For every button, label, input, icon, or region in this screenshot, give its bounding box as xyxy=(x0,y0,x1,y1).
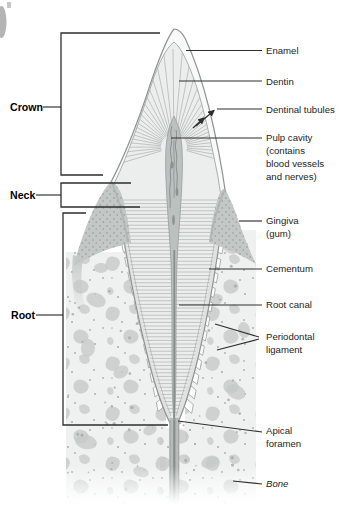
bottom-margin xyxy=(0,508,354,516)
bone-speckle xyxy=(114,387,116,389)
label-enamel: Enamel xyxy=(266,45,299,56)
bone-speckle xyxy=(234,284,237,287)
svg-text:foramen: foramen xyxy=(266,438,301,449)
bone-speckle xyxy=(120,330,122,332)
label-crown: Crown xyxy=(10,101,43,113)
svg-text:Gingiva: Gingiva xyxy=(266,215,299,226)
bone-speckle xyxy=(182,424,184,426)
label-neck: Neck xyxy=(10,189,35,201)
label-dentin: Dentin xyxy=(266,76,294,87)
label-root: Root xyxy=(11,309,36,321)
svg-text:blood vessels: blood vessels xyxy=(266,158,324,169)
bone-fade xyxy=(58,466,260,510)
bone-speckle xyxy=(219,299,221,301)
svg-text:Periodontal: Periodontal xyxy=(266,331,315,342)
label-bone: Bone xyxy=(266,478,288,489)
bone-speckle xyxy=(207,329,210,332)
bone-speckle xyxy=(111,462,113,464)
bone-speckle xyxy=(184,459,187,462)
bone-speckle xyxy=(105,421,107,423)
bone-speckle xyxy=(232,379,234,381)
bone-speckle xyxy=(230,265,233,268)
bone-speckle xyxy=(129,372,132,375)
svg-text:and nerves): and nerves) xyxy=(266,171,317,182)
bone-speckle xyxy=(76,433,79,436)
label-cementum: Cementum xyxy=(266,263,313,274)
bone-speckle xyxy=(111,405,113,407)
svg-text:(gum): (gum) xyxy=(266,228,291,239)
bone-speckle xyxy=(199,415,201,417)
svg-text:ligament: ligament xyxy=(266,344,303,355)
bone-speckle xyxy=(236,431,238,433)
bone-speckle xyxy=(136,322,139,325)
bone-speckle xyxy=(80,434,83,437)
bone-speckle xyxy=(244,432,246,434)
bone-speckle xyxy=(227,399,230,402)
bone-speckle xyxy=(241,338,244,341)
tooth-anatomy-figure: Crown Neck Root Enamel Dentin Dentinal t… xyxy=(0,0,354,516)
bone-blob xyxy=(94,263,108,273)
bone-speckle xyxy=(204,361,207,364)
svg-text:Pulp cavity: Pulp cavity xyxy=(266,132,313,143)
bone-speckle xyxy=(243,360,245,362)
bone-speckle xyxy=(82,341,84,343)
svg-text:Apical: Apical xyxy=(266,425,292,436)
svg-text:(contains: (contains xyxy=(266,145,305,156)
bone-speckle xyxy=(128,336,131,339)
label-dentinal-tubules: Dentinal tubules xyxy=(266,104,335,115)
bone-speckle xyxy=(130,406,133,409)
bone-speckle xyxy=(104,402,106,404)
bone-speckle xyxy=(231,456,234,459)
bone-speckle xyxy=(69,300,71,302)
tooth-diagram-svg: Crown Neck Root Enamel Dentin Dentinal t… xyxy=(0,0,354,516)
bone-speckle xyxy=(108,290,111,293)
label-root-canal: Root canal xyxy=(266,299,312,310)
bone-speckle xyxy=(128,428,131,431)
bone-speckle xyxy=(238,412,241,415)
bone-speckle xyxy=(72,313,75,316)
bone-speckle xyxy=(67,394,69,396)
